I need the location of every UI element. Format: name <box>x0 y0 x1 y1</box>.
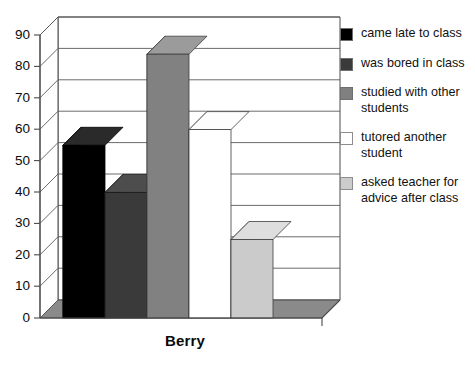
y-tick-50: 50 <box>4 154 30 168</box>
y-tick-90: 90 <box>4 28 30 42</box>
x-axis-category-label: Berry <box>120 332 250 349</box>
y-tick-80: 80 <box>4 60 30 74</box>
y-tick-40: 40 <box>4 185 30 199</box>
y-tick-70: 70 <box>4 91 30 105</box>
y-tick-10: 10 <box>4 279 30 293</box>
y-tick-60: 60 <box>4 122 30 136</box>
y-tick-30: 30 <box>4 217 30 231</box>
legend-item-tutored-another-student: tutored another student <box>340 130 475 161</box>
legend-item-was-bored-in-class: was bored in class <box>340 56 475 72</box>
legend-item-studied-with-other-students: studied with other students <box>340 85 475 116</box>
bar-chart: 90 80 70 60 50 40 30 20 10 0 Berry came … <box>0 0 475 369</box>
legend-swatch-icon <box>340 177 353 190</box>
legend-label: was bored in class <box>361 56 465 72</box>
legend-swatch-icon <box>340 28 353 41</box>
legend-label: tutored another student <box>361 130 473 161</box>
legend-label: asked teacher for advice after class <box>361 175 473 206</box>
legend-item-came-late-to-class: came late to class <box>340 26 475 42</box>
y-tick-0: 0 <box>4 311 30 325</box>
y-tick-20: 20 <box>4 248 30 262</box>
legend-swatch-icon <box>340 87 353 100</box>
y-axis <box>34 35 40 318</box>
legend-swatch-icon <box>340 132 353 145</box>
chart-legend: came late to class was bored in class st… <box>340 26 475 220</box>
left-wall <box>40 17 58 318</box>
y-axis-tick-labels: 90 80 70 60 50 40 30 20 10 0 <box>0 0 30 369</box>
legend-label: came late to class <box>361 26 462 42</box>
legend-label: studied with other students <box>361 85 473 116</box>
legend-swatch-icon <box>340 58 353 71</box>
legend-item-asked-teacher-for-advice-after-class: asked teacher for advice after class <box>340 175 475 206</box>
